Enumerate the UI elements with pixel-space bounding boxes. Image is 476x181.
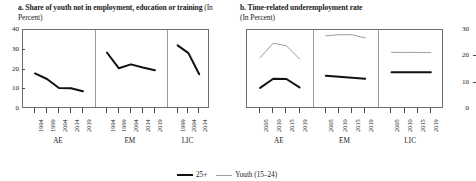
panel-separator [167, 30, 168, 107]
x-tick-label: 2019 [85, 119, 92, 132]
y-tick-label: 20 [453, 51, 469, 59]
panel-b-plot-area [246, 29, 443, 108]
x-tick-label: 2015 [354, 119, 361, 132]
x-tick-label: 2010 [341, 119, 348, 132]
y-tick-label: 0 [0, 104, 19, 112]
x-tick-label: 2015 [288, 119, 295, 132]
series-line [326, 35, 365, 38]
x-tick-label: 2005 [262, 119, 269, 132]
series-line [178, 45, 200, 74]
x-tick-mark [34, 108, 35, 113]
x-tick-label: 1999 [49, 119, 56, 132]
x-tick-mark [351, 108, 352, 113]
x-tick-mark [142, 108, 143, 113]
group-label-em: EM [94, 137, 166, 145]
panel-b: b. Time-related underemployment rate (In… [227, 0, 454, 181]
x-tick-label: 2014 [201, 119, 208, 132]
x-tick-label: 1999 [120, 119, 127, 132]
x-tick-mark [118, 108, 119, 113]
y-tick-mark [22, 49, 25, 50]
y-tick-label: 10 [0, 84, 19, 92]
y-tick-mark [22, 88, 25, 89]
y-tick-label: 0 [453, 104, 469, 112]
x-tick-label: 1994 [37, 119, 44, 132]
x-tick-label: 2015 [419, 119, 426, 132]
x-tick-label: 1994 [109, 119, 116, 132]
panel-b-unit: (In Percent) [240, 13, 275, 22]
x-tick-mark [338, 108, 339, 113]
y-tick-label: 20 [0, 65, 19, 73]
series-line [107, 53, 155, 71]
series-line [326, 76, 365, 79]
panel-b-title: b. Time-related underemployment rate (In… [240, 3, 450, 22]
panel-separator [378, 30, 379, 107]
x-tick-mark [106, 108, 107, 113]
legend-item-25plus: 25+ [177, 171, 207, 179]
x-tick-mark [46, 108, 47, 113]
panel-a-series-layer [23, 30, 210, 109]
x-tick-mark [198, 108, 199, 113]
legend-label-25plus: 25+ [196, 171, 207, 179]
y-tick-label: 30 [0, 45, 19, 53]
x-tick-label: 2019 [156, 119, 163, 132]
y-tick-label: 30 [453, 25, 469, 33]
panel-b-title-line1: b. Time-related underemployment rate [240, 3, 362, 12]
group-label-em: EM [312, 137, 378, 145]
x-tick-label: 2019 [367, 119, 374, 132]
x-tick-label: 2010 [406, 119, 413, 132]
x-tick-mark [285, 108, 286, 113]
legend-line-youth-icon [216, 175, 232, 176]
x-tick-mark [58, 108, 59, 113]
group-label-lic: LIC [377, 137, 443, 145]
panel-separator [313, 30, 314, 107]
x-tick-label: 2019 [432, 119, 439, 132]
x-tick-label: 2014 [144, 119, 151, 132]
legend-line-25plus-icon [177, 174, 193, 176]
panel-b-series-layer [247, 30, 444, 109]
x-tick-mark [154, 108, 155, 113]
x-tick-label: 2014 [73, 119, 80, 132]
group-label-ae: AE [246, 137, 312, 145]
x-tick-label: 2004 [132, 119, 139, 132]
chart-legend: 25+ Youth (15–24) [0, 171, 454, 179]
x-tick-label: 2004 [190, 119, 197, 132]
x-tick-mark [259, 108, 260, 113]
x-tick-mark [130, 108, 131, 113]
panel-a-title-line2: education or training [136, 3, 203, 12]
panel-a-title: a. Share of youth not in employment, edu… [18, 3, 223, 22]
y-tick-label: 10 [453, 78, 469, 86]
x-tick-mark [70, 108, 71, 113]
series-line [260, 43, 299, 59]
x-tick-label: 1999 [179, 119, 186, 132]
group-label-lic: LIC [166, 137, 209, 145]
x-tick-mark [187, 108, 188, 113]
panel-a-plot-area [22, 29, 209, 108]
x-tick-mark [417, 108, 418, 113]
series-line [35, 73, 83, 91]
x-tick-mark [364, 108, 365, 113]
legend-label-youth: Youth (15–24) [235, 171, 277, 179]
x-tick-mark [299, 108, 300, 113]
x-tick-mark [272, 108, 273, 113]
x-tick-label: 2005 [393, 119, 400, 132]
x-tick-label: 2004 [61, 119, 68, 132]
y-tick-label: 40 [0, 25, 19, 33]
x-tick-mark [325, 108, 326, 113]
panel-a: a. Share of youth not in employment, edu… [0, 0, 227, 181]
x-tick-label: 2010 [275, 119, 282, 132]
x-tick-mark [177, 108, 178, 113]
x-tick-mark [430, 108, 431, 113]
x-tick-mark [404, 108, 405, 113]
legend-item-youth: Youth (15–24) [216, 171, 277, 179]
x-tick-mark [82, 108, 83, 113]
group-label-ae: AE [22, 137, 94, 145]
y-tick-mark [22, 69, 25, 70]
panel-separator [95, 30, 96, 107]
series-line [260, 79, 299, 88]
x-tick-mark [390, 108, 391, 113]
panel-a-title-line1: a. Share of youth not in employment, [18, 3, 134, 12]
x-tick-label: 2019 [301, 119, 308, 132]
x-tick-label: 2005 [327, 119, 334, 132]
